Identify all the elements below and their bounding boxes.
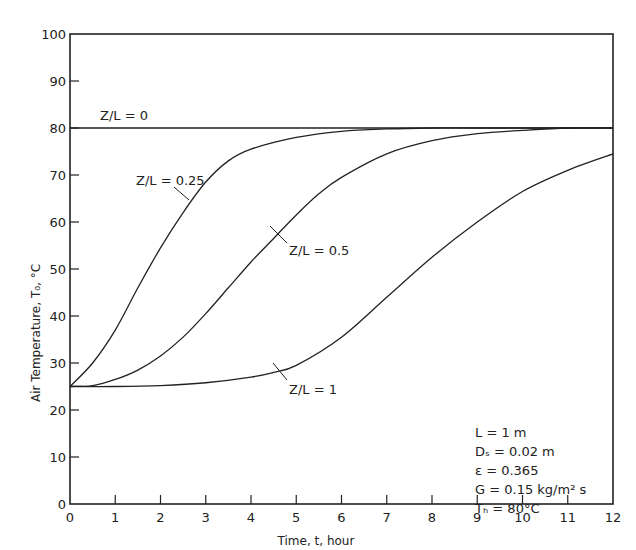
y-tick-label: 90: [49, 74, 66, 89]
x-tick-label: 7: [383, 510, 391, 525]
y-tick-label: 100: [41, 27, 66, 42]
x-tick-label: 4: [247, 510, 255, 525]
chart-container: 0102030405060708090100 0123456789101112 …: [0, 0, 636, 550]
x-tick-label: 2: [156, 510, 164, 525]
label-zl-025: Z/L = 0.25: [136, 173, 205, 188]
param-ds: Dₛ = 0.02 m: [475, 444, 555, 459]
y-tick-label: 40: [49, 309, 66, 324]
y-tick-label: 20: [49, 403, 66, 418]
y-tick-label: 10: [49, 450, 66, 465]
y-tick-label: 50: [49, 262, 66, 277]
series-line-z-l-1: [70, 154, 613, 387]
x-tick-label: 8: [428, 510, 436, 525]
y-tick-label: 60: [49, 215, 66, 230]
param-epsilon: ε = 0.365: [475, 463, 538, 478]
leader-zl-025: [174, 187, 189, 200]
plot-frame: [70, 34, 613, 504]
x-tick-label: 1: [111, 510, 119, 525]
y-tick-label: 30: [49, 356, 66, 371]
y-axis-title: Air Temperature, T₀, °C: [29, 264, 43, 402]
chart-svg: 0102030405060708090100 0123456789101112 …: [0, 0, 636, 550]
y-axis-ticks: 0102030405060708090100: [41, 27, 79, 512]
y-tick-label: 80: [49, 121, 66, 136]
label-zl-0: Z/L = 0: [100, 108, 148, 123]
param-th: Tₕ = 80°C: [474, 501, 539, 516]
param-g: G = 0.15 kg/m² s: [475, 482, 586, 497]
param-l: L = 1 m: [475, 425, 526, 440]
label-zl-05: Z/L = 0.5: [289, 243, 349, 258]
x-tick-label: 5: [292, 510, 300, 525]
x-tick-label: 6: [337, 510, 345, 525]
x-tick-label: 11: [559, 510, 576, 525]
parameter-box: L = 1 m Dₛ = 0.02 m ε = 0.365 G = 0.15 k…: [474, 425, 586, 516]
label-zl-1: Z/L = 1: [289, 382, 337, 397]
x-tick-label: 3: [202, 510, 210, 525]
y-tick-label: 70: [49, 168, 66, 183]
x-tick-label: 12: [605, 510, 622, 525]
x-tick-label: 0: [66, 510, 74, 525]
y-tick-label: 0: [58, 497, 66, 512]
x-axis-title: Time, t, hour: [277, 534, 355, 548]
